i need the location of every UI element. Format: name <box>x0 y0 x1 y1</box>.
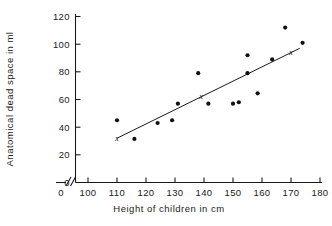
regression-x-marker: x <box>114 133 119 143</box>
x-tick-label-180: 180 <box>311 187 328 198</box>
regression-x-marker: x <box>288 47 293 57</box>
y-tick-label-60: 60 <box>59 94 70 105</box>
x-tick-label-170: 170 <box>282 187 299 198</box>
y-axis-ticks <box>76 17 81 183</box>
data-point <box>206 102 210 106</box>
y-tick-label-80: 80 <box>59 66 70 77</box>
data-point <box>256 91 260 95</box>
x-tick-label-130: 130 <box>166 187 183 198</box>
data-point <box>231 102 235 106</box>
regression-line <box>117 48 300 138</box>
x-axis-ticks <box>88 178 320 183</box>
chart-canvas: 0 20 40 60 80 100 120 0 100 110 120 130 … <box>0 0 332 226</box>
axis-break-slash-2 <box>71 177 76 186</box>
x-tick-label-150: 150 <box>224 187 241 198</box>
x-tick-label-100: 100 <box>79 187 96 198</box>
data-point <box>237 100 241 104</box>
y-tick-label-20: 20 <box>59 149 70 160</box>
x-tick-label-120: 120 <box>137 187 154 198</box>
data-point <box>270 57 274 61</box>
scatter-chart-figure: 0 20 40 60 80 100 120 0 100 110 120 130 … <box>0 0 332 226</box>
data-point <box>301 41 305 45</box>
x-tick-label-110: 110 <box>109 187 125 198</box>
y-tick-label-120: 120 <box>53 11 70 22</box>
y-tick-label-0: 0 <box>64 177 70 188</box>
y-tick-label-40: 40 <box>59 122 70 133</box>
data-point <box>132 137 136 141</box>
data-point <box>170 118 174 122</box>
x-tick-label-160: 160 <box>253 187 270 198</box>
data-point <box>176 102 180 106</box>
x-axis-title: Height of children in cm <box>113 203 224 214</box>
y-tick-label-100: 100 <box>53 39 70 50</box>
data-point <box>156 121 160 125</box>
regression-x-marker: x <box>198 91 203 101</box>
data-point <box>115 118 119 122</box>
data-point <box>245 53 249 57</box>
x-tick-label-140: 140 <box>195 187 212 198</box>
data-point <box>283 25 287 29</box>
data-points-layer <box>115 25 305 141</box>
data-point <box>196 71 200 75</box>
y-axis-title: Anatomical dead space in ml <box>4 32 15 167</box>
data-point <box>245 71 249 75</box>
x-tick-label-0: 0 <box>58 187 64 198</box>
